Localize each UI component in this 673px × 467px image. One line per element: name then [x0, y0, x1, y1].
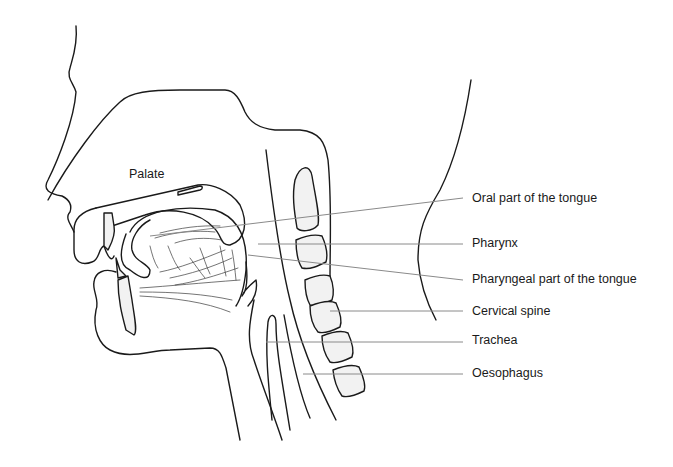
label-cervical-spine: Cervical spine [472, 305, 551, 318]
tongue-outline [130, 208, 246, 306]
label-trachea: Trachea [472, 334, 517, 347]
lower-incisor-tip [116, 258, 126, 278]
face-profile [46, 26, 76, 232]
label-pharyngeal-tongue: Pharyngeal part of the tongue [472, 273, 637, 286]
anatomy-diagram [0, 0, 673, 467]
vertebra-c5 [322, 332, 353, 363]
lower-lip-chin [94, 270, 240, 440]
oesophagus-outline [284, 315, 310, 418]
upper-incisor [104, 213, 114, 250]
hard-palate [96, 185, 245, 245]
vertebra-c4 [310, 302, 341, 333]
label-oral-tongue: Oral part of the tongue [472, 192, 597, 205]
label-oesophagus: Oesophagus [472, 367, 543, 380]
tongue-surface [121, 220, 150, 278]
label-pharynx: Pharynx [472, 237, 518, 250]
lower-incisor [118, 276, 136, 335]
vertebra-c6 [333, 366, 365, 397]
pharynx-anterior [249, 300, 282, 440]
trachea-outline [267, 315, 290, 430]
vertebra-c1-dens [294, 168, 319, 231]
leader-pharyngeal-tongue [248, 255, 463, 280]
label-palate: Palate [129, 168, 164, 181]
tongue-fibers [140, 226, 240, 312]
nasal-cavity-outline [48, 90, 331, 280]
